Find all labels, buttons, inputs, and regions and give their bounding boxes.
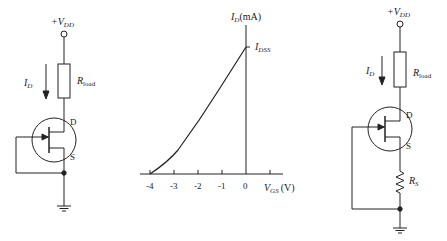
tick-label: -4 <box>146 181 154 191</box>
current-label: ID <box>23 77 32 90</box>
ground-icon <box>393 228 407 233</box>
drain-label: D <box>70 117 77 127</box>
current-arrow-icon <box>379 77 385 85</box>
ground-icon <box>57 206 71 211</box>
gate-arrow-icon <box>42 134 48 140</box>
tick-label: -2 <box>194 181 202 191</box>
drain-label: D <box>406 110 413 120</box>
vdd-label: +VDD <box>51 16 74 29</box>
source-label: S <box>406 141 411 151</box>
load-resistor-label: Rload <box>76 75 96 88</box>
right-circuit <box>352 21 412 233</box>
source-resistor-label: RS <box>408 175 419 188</box>
tick-label: -3 <box>170 181 178 191</box>
x-axis-label: VGS(V) <box>264 182 295 195</box>
current-label: ID <box>365 65 374 78</box>
current-arrow-icon <box>43 91 49 99</box>
gate-arrow-icon <box>378 124 384 130</box>
load-resistor <box>394 52 406 87</box>
vdd-terminal <box>397 21 403 27</box>
vdd-label: +VDD <box>387 6 410 19</box>
idss-label: IDSS <box>254 41 271 54</box>
load-resistor <box>58 64 70 98</box>
y-axis-label: ID(mA) <box>230 11 261 24</box>
tick-label: -1 <box>218 181 226 191</box>
tick-label: 0 <box>243 181 248 191</box>
vdd-terminal <box>61 31 67 37</box>
source-resistor <box>396 168 404 209</box>
load-resistor-label: Rload <box>412 67 432 80</box>
transfer-curve <box>150 47 246 174</box>
source-label: S <box>70 152 75 162</box>
left-circuit <box>16 31 76 211</box>
